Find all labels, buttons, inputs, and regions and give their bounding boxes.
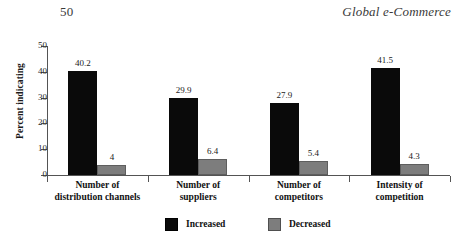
y-axis-tick: 0 [0, 175, 47, 176]
bar-group: 40.24 [68, 46, 126, 175]
x-axis-category-label: Number ofsuppliers [140, 180, 257, 203]
y-axis-tick-label: 50 [25, 41, 47, 50]
y-axis-tick-label: 40 [25, 67, 47, 76]
bar-value-label: 40.2 [60, 59, 105, 68]
category-label-line: Number of [277, 180, 321, 190]
x-axis-category-label: Intensity ofcompetition [341, 180, 458, 203]
y-axis-tick-label: 20 [25, 118, 47, 127]
category-label-line: suppliers [140, 192, 257, 204]
bar-decreased [97, 165, 126, 175]
bar-group-bars: 29.96.4 [169, 46, 227, 175]
x-axis-category-label: Number ofdistribution channels [39, 180, 156, 203]
bar-value-label: 4 [89, 153, 134, 162]
legend-label-increased: Increased [186, 219, 225, 229]
y-axis-tick: 10 [0, 149, 47, 150]
category-label-line: Intensity of [377, 180, 423, 190]
x-axis-category-label: Number ofcompetitors [241, 180, 358, 203]
bar-value-label: 29.9 [161, 86, 206, 95]
category-label-line: competition [341, 192, 458, 204]
y-axis-tick-label: 10 [25, 144, 47, 153]
bar-group-bars: 41.54.3 [371, 46, 429, 175]
bar-group-bars: 27.95.4 [270, 46, 328, 175]
legend-item-increased: Increased [165, 216, 225, 232]
bar-increased [270, 103, 299, 175]
y-axis-line [47, 46, 48, 176]
bar-group: 29.96.4 [169, 46, 227, 175]
y-axis-tick: 40 [0, 72, 47, 73]
bar-decreased [198, 159, 227, 176]
bar-decreased [299, 161, 328, 175]
bar-value-label: 27.9 [262, 91, 307, 100]
y-axis-tick: 20 [0, 123, 47, 124]
y-axis-tick-label: 0 [25, 170, 47, 179]
running-head: Global e-Commerce [342, 4, 451, 20]
bar-value-label: 4.3 [392, 152, 437, 161]
bar-chart: Percent indicating 01020304050 40.2429.9… [0, 34, 469, 249]
chart-legend: Increased Decreased [0, 216, 469, 238]
category-label-line: Number of [176, 180, 220, 190]
page-header: 50 Global e-Commerce [0, 4, 469, 22]
bar-group-bars: 40.24 [68, 46, 126, 175]
bar-value-label: 6.4 [190, 147, 235, 156]
bar-value-label: 5.4 [291, 149, 336, 158]
y-axis-tick: 30 [0, 98, 47, 99]
bar-decreased [400, 164, 429, 175]
bar-group: 41.54.3 [371, 46, 429, 175]
page-number: 50 [60, 4, 74, 20]
legend-item-decreased: Decreased [268, 216, 331, 232]
legend-swatch-increased-icon [165, 218, 178, 231]
bar-value-label: 41.5 [363, 56, 408, 65]
y-axis-tick-label: 30 [25, 93, 47, 102]
bar-increased [169, 98, 198, 175]
legend-label-decreased: Decreased [289, 219, 331, 229]
y-axis-tick: 50 [0, 46, 47, 47]
y-axis-title: Percent indicating [15, 36, 25, 166]
category-label-line: competitors [241, 192, 358, 204]
category-label-line: distribution channels [39, 192, 156, 204]
legend-swatch-decreased-icon [268, 218, 281, 231]
bar-group: 27.95.4 [270, 46, 328, 175]
category-label-line: Number of [75, 180, 119, 190]
